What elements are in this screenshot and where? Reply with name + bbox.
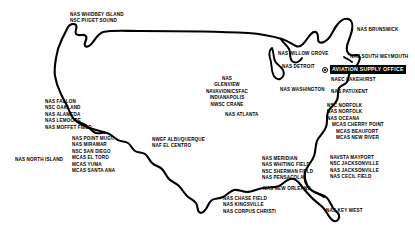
target-marker-icon [322,67,328,73]
label-mid-atlantic: NSC NORFOLK NAS NORFOLK NAS OCEANA MCAS … [327,103,384,141]
label-line: NAEC LAKEHURST [331,77,376,83]
label-line: NAS MOFFET FIELD [45,125,92,131]
label-line: NAS PATUXENT [331,89,368,95]
label-line: NAS WILLOW GROVE [278,51,328,57]
naval-aviation-map: NAS WHIDBEY ISLAND NSC PUGET SOUND NAS F… [0,0,415,246]
label-line: NSC PUGET SOUND [70,18,124,24]
label-line: NAS WASHINGTON [280,87,325,93]
label-line: NAS SOUTH WEYMOUTH [350,54,408,60]
label-great-lakes: NAS DETROIT [282,64,315,70]
label-southwest: NWEF ALBUQUERQUE NAF EL CENTRO [152,137,205,150]
label-line: NAS KEY WEST [326,208,363,214]
label-line: NWSC CRANE [196,102,258,108]
label-northern-california: NAS FALLON NSC OAKLAND NAS ALAMEDA NAS L… [45,99,92,131]
label-southern-california: NAS POINT MUGU NAS MIRAMAR NSC SAN DIEGO… [72,136,115,174]
label-willow-grove: NAS WILLOW GROVE [278,51,328,57]
label-line: NAS NEW ORLEANS [263,186,311,192]
label-line: NAS DETROIT [282,64,315,70]
label-line: MCAS SANTA ANA [72,168,115,174]
label-line: NAS WHITING FIELD [262,162,313,168]
label-south-weymouth: NAS SOUTH WEYMOUTH [350,54,408,60]
label-southeast-inland: NAS ATLANTA [225,112,258,118]
label-florida-east: NAVSTA MAYPORT NSC JACKSONVILLE NAS JACK… [330,155,379,181]
label-washington: NAS WASHINGTON [280,87,325,93]
label-patuxent: NAS PATUXENT [331,89,368,95]
label-lakehurst: NAEC LAKEHURST [331,77,376,83]
label-line: NSC JACKSONVILLE [330,161,379,167]
label-midwest: NAS GLENVIEW NAVAVIONICSFAC INDIANAPOLIS… [196,76,258,108]
label-line: NAS PENSACOLA [262,175,313,181]
label-line: NAS CORPUS CHRISTI [223,209,276,215]
label-line: MCAS EL TORO [72,155,115,161]
label-new-england: NAS BRUNSWICK [357,27,399,33]
label-texas: NAS CHASE FIELD NAS KINGSVILLE NAS CORPU… [223,196,276,215]
label-north-island: NAS NORTH ISLAND [15,157,63,163]
label-line: NAS CECIL FIELD [330,174,379,180]
label-line: NAS NORTH ISLAND [15,157,63,163]
label-line: MCAS NEW RIVER [327,135,384,141]
label-line: MCAS CHERRY POINT [327,122,384,128]
label-gulf-coast: NAS MERIDIAN NAS WHITING FIELD NSC SHERM… [262,156,313,182]
label-florida-keys: NAS KEY WEST [326,208,363,214]
label-line: NAF EL CENTRO [152,143,205,149]
label-new-orleans: NAS NEW ORLEANS [263,186,311,192]
label-line: NAS BRUNSWICK [357,27,399,33]
label-pacific-northwest: NAS WHIDBEY ISLAND NSC PUGET SOUND [70,12,124,25]
aviation-supply-office-highlight[interactable]: AVIATION SUPPLY OFFICE [330,65,406,74]
label-line: NAS ATLANTA [225,112,258,118]
